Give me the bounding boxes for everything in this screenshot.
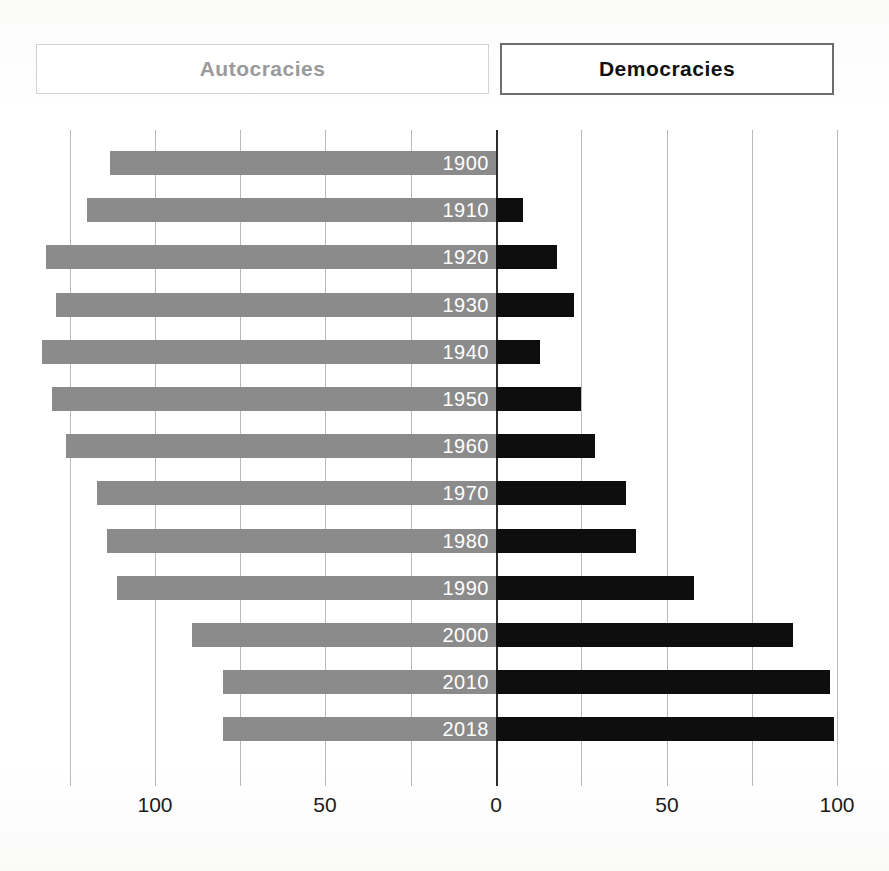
bar-autocracies[interactable] xyxy=(66,434,496,458)
x-axis-tick-label: 100 xyxy=(115,793,195,817)
bar-democracies[interactable] xyxy=(496,529,636,553)
bar-democracies[interactable] xyxy=(496,481,626,505)
bar-autocracies[interactable] xyxy=(42,340,496,364)
x-axis-tick-label: 50 xyxy=(285,793,365,817)
bar-autocracies[interactable] xyxy=(52,387,496,411)
bar-democracies[interactable] xyxy=(496,245,557,269)
bar-democracies[interactable] xyxy=(496,340,540,364)
bar-row: 1990 xyxy=(0,576,889,600)
bar-democracies[interactable] xyxy=(496,434,595,458)
bar-row: 1960 xyxy=(0,434,889,458)
bar-row: 1920 xyxy=(0,245,889,269)
bar-autocracies[interactable] xyxy=(87,198,496,222)
bar-autocracies[interactable] xyxy=(46,245,496,269)
x-axis-tick-label: 50 xyxy=(627,793,707,817)
bar-autocracies[interactable] xyxy=(107,529,496,553)
bar-democracies[interactable] xyxy=(496,717,834,741)
bar-row: 2018 xyxy=(0,717,889,741)
x-axis-tick-label: 100 xyxy=(797,793,877,817)
bar-row: 1940 xyxy=(0,340,889,364)
bar-chart-plot-area: 1900191019201930194019501960197019801990… xyxy=(0,0,889,871)
bar-democracies[interactable] xyxy=(496,387,581,411)
bar-democracies[interactable] xyxy=(496,623,793,647)
bar-row: 1910 xyxy=(0,198,889,222)
x-axis-tick-label: 0 xyxy=(456,793,536,817)
bar-autocracies[interactable] xyxy=(56,293,496,317)
bar-autocracies[interactable] xyxy=(223,717,496,741)
bar-autocracies[interactable] xyxy=(117,576,496,600)
bar-autocracies[interactable] xyxy=(110,151,496,175)
bar-row: 2000 xyxy=(0,623,889,647)
bar-democracies[interactable] xyxy=(496,576,694,600)
bar-democracies[interactable] xyxy=(496,293,574,317)
bar-row: 1970 xyxy=(0,481,889,505)
bar-autocracies[interactable] xyxy=(223,670,496,694)
bar-row: 2010 xyxy=(0,670,889,694)
bar-row: 1930 xyxy=(0,293,889,317)
bar-autocracies[interactable] xyxy=(192,623,496,647)
bar-democracies[interactable] xyxy=(496,670,830,694)
bar-row: 1900 xyxy=(0,151,889,175)
bar-autocracies[interactable] xyxy=(97,481,496,505)
bar-row: 1980 xyxy=(0,529,889,553)
bar-democracies[interactable] xyxy=(496,198,523,222)
bar-row: 1950 xyxy=(0,387,889,411)
